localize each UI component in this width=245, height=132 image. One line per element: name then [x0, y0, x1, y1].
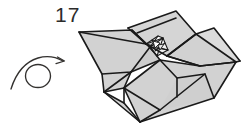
origami-step-diagram: 17: [0, 0, 245, 132]
folded-paper-model: [0, 0, 245, 132]
